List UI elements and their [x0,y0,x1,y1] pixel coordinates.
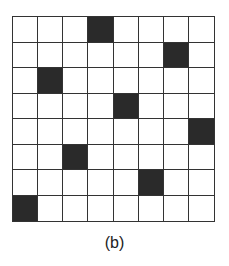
grid-cell-filled [114,94,139,120]
grid-cell-empty [13,170,38,196]
grid-cell-empty [189,196,214,222]
grid-cell-filled [139,170,164,196]
grid-cell-empty [164,68,189,94]
grid-cell-empty [88,170,113,196]
grid-cell-empty [114,119,139,145]
grid-cell-empty [139,17,164,43]
grid-diagram [12,16,215,222]
grid-cell-empty [114,17,139,43]
grid-cell-empty [164,94,189,120]
grid-cell-empty [88,43,113,69]
grid-cell-empty [164,145,189,171]
grid-cell-empty [63,119,88,145]
grid-cell-empty [38,17,63,43]
grid-cell-empty [164,196,189,222]
grid-cell-empty [63,17,88,43]
grid-cell-empty [114,145,139,171]
grid-cell-empty [139,196,164,222]
grid-cell-empty [114,196,139,222]
grid-cell-empty [63,43,88,69]
grid-cell-empty [13,17,38,43]
grid-cell-empty [38,170,63,196]
grid-cell-empty [139,43,164,69]
grid-cell-empty [164,119,189,145]
grid-cell-empty [63,196,88,222]
grid-cell-empty [88,68,113,94]
grid-cell-filled [13,196,38,222]
grid-cell-empty [164,170,189,196]
grid-cell-empty [13,94,38,120]
grid-cell-empty [38,145,63,171]
grid-cell-filled [189,119,214,145]
grid-cell-empty [164,17,189,43]
grid-cell-empty [13,145,38,171]
grid-cell-empty [189,68,214,94]
grid-cell-filled [164,43,189,69]
grid-cell-empty [13,68,38,94]
grid-cell-empty [114,170,139,196]
grid-cell-empty [189,43,214,69]
grid-cell-empty [114,43,139,69]
grid-cell-empty [38,196,63,222]
grid-cell-empty [189,170,214,196]
grid-cell-empty [189,145,214,171]
grid-cell-empty [139,145,164,171]
grid-cell-empty [139,68,164,94]
grid-cell-empty [38,119,63,145]
grid-cell-empty [189,94,214,120]
grid-cell-empty [13,43,38,69]
grid-cell-filled [38,68,63,94]
grid-cell-empty [88,145,113,171]
grid-cell-empty [63,68,88,94]
figure-caption: (b) [0,234,229,252]
grid-cell-empty [139,94,164,120]
grid-cell-empty [88,196,113,222]
grid-cell-empty [13,119,38,145]
grid-cell-empty [63,170,88,196]
grid-cell-empty [38,94,63,120]
grid-cell-filled [88,17,113,43]
grid-cell-empty [114,68,139,94]
grid-cell-empty [189,17,214,43]
grid-cell-empty [139,119,164,145]
grid-cell-empty [88,94,113,120]
grid-cell-empty [63,94,88,120]
grid-cell-empty [88,119,113,145]
grid-cell-filled [63,145,88,171]
grid-cell-empty [38,43,63,69]
